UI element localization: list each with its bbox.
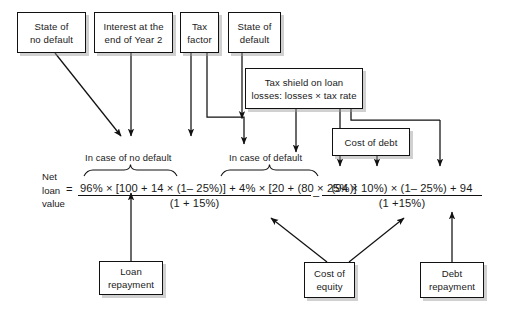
diagram-canvas: State of no default Interest at the end …: [0, 0, 510, 312]
box-line-1: Loan: [120, 265, 142, 278]
box-line-1: Debt: [442, 267, 463, 280]
box-cost-of-debt[interactable]: Cost of debt: [332, 128, 410, 156]
box-debt-repayment[interactable]: Debt repayment: [420, 262, 484, 298]
box-interest-end-of-year-2[interactable]: Interest at the end of Year 2: [94, 12, 173, 53]
fraction-denominator: (1 + 15%): [78, 196, 311, 209]
fraction-default-cases: 96% × [100 + 14 × (1– 25%)] + 4% × [20 +…: [78, 182, 311, 209]
fraction-numerator: (94 × 10%) × (1– 25%) + 94: [322, 182, 482, 195]
fraction-debt-repayment: (94 × 10%) × (1– 25%) + 94 (1 +15%): [322, 182, 482, 209]
fraction-denominator: (1 +15%): [322, 196, 482, 209]
box-line-1: State of: [238, 20, 272, 33]
box-cost-of-equity[interactable]: Cost of equity: [304, 262, 355, 298]
net-label-line-1: Net: [42, 170, 65, 184]
box-line-2: repayment: [429, 280, 475, 293]
net-loan-value-label: Net loan value: [42, 170, 65, 211]
caption-in-case-of-no-default: In case of no default: [85, 152, 172, 163]
box-line-1: Interest at the: [103, 20, 163, 33]
arrow-cost-of-equity-left: [271, 218, 327, 262]
arrow-state-no-default: [55, 53, 121, 136]
box-line-2: end of Year 2: [105, 33, 163, 46]
box-line-1: State of: [35, 20, 69, 33]
box-line-1: Tax: [192, 20, 207, 33]
caption-in-case-of-default: In case of default: [229, 152, 302, 163]
box-state-of-default[interactable]: State of default: [228, 12, 281, 53]
box-loan-repayment[interactable]: Loan repayment: [99, 261, 163, 295]
box-tax-factor[interactable]: Tax factor: [180, 12, 219, 53]
box-line-1: Cost of: [314, 267, 345, 280]
box-line-2: losses: losses × tax rate: [251, 89, 356, 102]
box-state-of-no-default[interactable]: State of no default: [17, 12, 86, 53]
brace-no-default: [84, 165, 177, 177]
box-tax-shield-on-loan-losses[interactable]: Tax shield on loan losses: losses × tax …: [245, 68, 363, 109]
box-line-2: default: [240, 33, 270, 46]
box-line-1: Cost of debt: [345, 136, 398, 149]
box-line-2: no default: [30, 33, 73, 46]
arrow-tax-factor-right: [207, 53, 244, 144]
rail-tax-shield-to-right: [351, 109, 440, 120]
minus-sign: –: [313, 189, 319, 201]
box-line-2: factor: [187, 33, 212, 46]
box-line-1: Tax shield on loan: [265, 76, 344, 89]
box-line-2: equity: [316, 280, 342, 293]
arrow-cost-of-equity-right: [349, 218, 404, 262]
box-line-2: repayment: [108, 278, 154, 291]
net-label-line-3: value: [42, 197, 65, 211]
equals-sign: =: [66, 183, 73, 195]
brace-default: [221, 165, 318, 177]
fraction-numerator: 96% × [100 + 14 × (1– 25%)] + 4% × [20 +…: [78, 182, 311, 195]
net-label-line-2: loan: [42, 184, 65, 198]
